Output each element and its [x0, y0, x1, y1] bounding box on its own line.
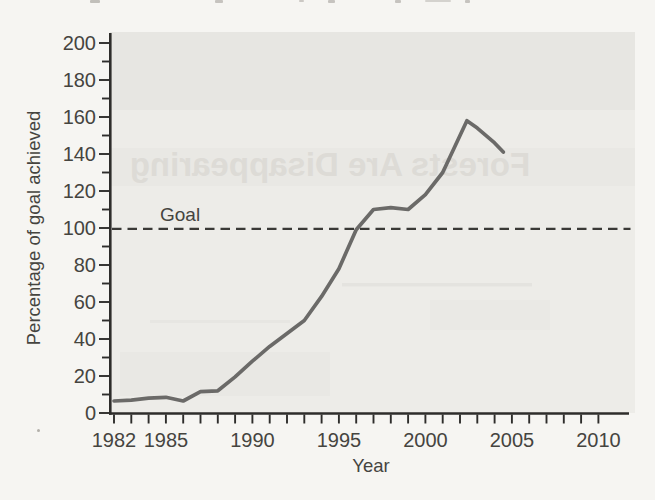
x-tick-label: 2010 [576, 429, 621, 451]
y-tick-label: 120 [63, 180, 96, 202]
bleedthrough-text: Forests Are Disappearing [130, 146, 530, 183]
x-axis-title: Year [352, 455, 389, 476]
x-tick-label: 1995 [317, 429, 362, 451]
x-tick-label: 2000 [403, 429, 448, 451]
y-tick-label: 200 [63, 32, 96, 54]
scan-blotch [430, 300, 550, 330]
y-tick-label: 160 [63, 106, 96, 128]
x-tick-label: 1990 [230, 429, 275, 451]
x-tick-label: 2005 [490, 429, 535, 451]
y-tick-label: 40 [74, 328, 96, 350]
y-tick-label: 180 [63, 69, 96, 91]
scanned-textbook-page: Forests Are Disappearing 020406080100120… [0, 0, 655, 500]
y-axis-title: Percentage of goal achieved [23, 111, 44, 346]
x-tick-label: 1982 [92, 429, 137, 451]
bleed-streak [342, 283, 532, 287]
line-chart: Forests Are Disappearing 020406080100120… [0, 0, 655, 500]
y-tick-label: 100 [63, 217, 96, 239]
scan-band [110, 32, 635, 110]
x-tick-label: 1985 [144, 429, 189, 451]
y-tick-label: 0 [85, 402, 96, 424]
y-tick-label: 20 [74, 365, 96, 387]
y-tick-label: 140 [63, 143, 96, 165]
scan-blotch [120, 352, 330, 396]
goal-label: Goal [160, 204, 200, 225]
y-tick-label: 60 [74, 291, 96, 313]
y-tick-label: 80 [74, 254, 96, 276]
bleed-streak [150, 320, 290, 323]
